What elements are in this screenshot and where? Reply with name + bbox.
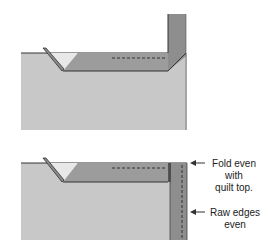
fold-label-line-3: quilt top. bbox=[215, 182, 253, 193]
raw-label-line-1: Raw edges bbox=[210, 207, 260, 218]
binding-strip-vertical bbox=[170, 163, 187, 240]
fold-label-line-1: Fold even bbox=[212, 158, 256, 169]
binding-strip-horizontal bbox=[63, 53, 168, 71]
step-2-diagram: Fold even with quilt top. Raw edges even bbox=[21, 158, 260, 240]
fold-label-line-2: with bbox=[224, 170, 243, 181]
binding-strip-horizontal bbox=[63, 163, 170, 182]
fold-arrow bbox=[190, 160, 205, 166]
binding-diagram: Fold even with quilt top. Raw edges even bbox=[0, 0, 270, 252]
step-1-diagram bbox=[21, 14, 187, 130]
raw-label-line-2: even bbox=[224, 219, 246, 230]
raw-edge-arrow bbox=[190, 209, 205, 215]
